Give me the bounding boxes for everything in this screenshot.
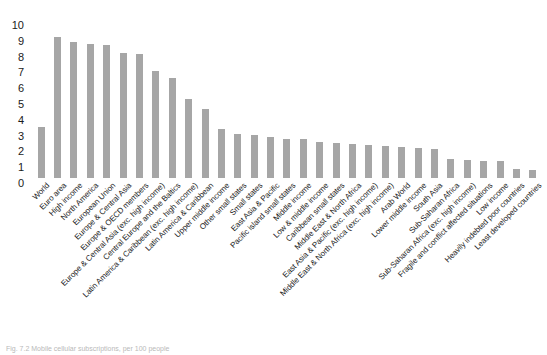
y-tick-label: 7: [18, 67, 24, 78]
bar[interactable]: [513, 169, 520, 178]
bar-slot: [295, 20, 311, 178]
bar-slot: [328, 20, 344, 178]
bar[interactable]: [415, 148, 422, 178]
bar-slot: [180, 20, 196, 178]
bar[interactable]: [464, 160, 471, 178]
bar-slot: [525, 20, 541, 178]
bar-slot: [443, 20, 459, 178]
bar-slot: [312, 20, 328, 178]
bar[interactable]: [185, 99, 192, 178]
y-tick-label: 0: [18, 178, 24, 189]
bar-slot: [262, 20, 278, 178]
bar[interactable]: [169, 78, 176, 178]
bar-slot: [377, 20, 393, 178]
y-tick-label: 10: [12, 20, 24, 31]
y-tick-label: 9: [18, 36, 24, 47]
y-tick-label: 4: [18, 115, 24, 126]
bar-chart-figure: 109876543210 WorldEuro areaHigh incomeNo…: [0, 0, 547, 355]
bar-slot: [475, 20, 491, 178]
bar-slot: [459, 20, 475, 178]
bar[interactable]: [251, 135, 258, 178]
bar-slot: [49, 20, 65, 178]
bar[interactable]: [103, 45, 110, 178]
bar[interactable]: [54, 37, 61, 178]
bar[interactable]: [38, 127, 45, 178]
y-tick-label: 2: [18, 146, 24, 157]
figure-caption: Fig. 7.2 Mobile cellular subscriptions, …: [6, 344, 306, 354]
bar[interactable]: [497, 161, 504, 178]
bar[interactable]: [283, 139, 290, 179]
y-tick-label: 8: [18, 52, 24, 63]
bar[interactable]: [333, 143, 340, 178]
bar-slot: [279, 20, 295, 178]
y-tick-label: 6: [18, 83, 24, 94]
bar[interactable]: [87, 44, 94, 178]
bar[interactable]: [316, 142, 323, 178]
bar-slot: [82, 20, 98, 178]
bar[interactable]: [267, 137, 274, 178]
bar-slot: [426, 20, 442, 178]
bar-slot: [131, 20, 147, 178]
bar-slot: [66, 20, 82, 178]
bar[interactable]: [120, 53, 127, 178]
y-tick-label: 1: [18, 162, 24, 173]
bar-slot: [99, 20, 115, 178]
bar-slot: [164, 20, 180, 178]
bar-slot: [148, 20, 164, 178]
bar[interactable]: [447, 159, 454, 178]
bar-slot: [344, 20, 360, 178]
bar[interactable]: [300, 139, 307, 178]
bar[interactable]: [218, 129, 225, 178]
bar[interactable]: [136, 54, 143, 178]
bar[interactable]: [382, 146, 389, 178]
y-axis: 109876543210: [0, 12, 28, 188]
bar-slot: [115, 20, 131, 178]
bar[interactable]: [529, 170, 536, 178]
bar[interactable]: [398, 147, 405, 178]
bar[interactable]: [431, 149, 438, 178]
bar-slot: [410, 20, 426, 178]
bar-slot: [361, 20, 377, 178]
bar[interactable]: [234, 134, 241, 178]
bar[interactable]: [152, 71, 159, 178]
y-tick-label: 3: [18, 131, 24, 142]
bar-slot: [246, 20, 262, 178]
bar-slot: [33, 20, 49, 178]
bar[interactable]: [365, 145, 372, 178]
bar-slot: [394, 20, 410, 178]
y-tick-label: 5: [18, 99, 24, 110]
bar[interactable]: [70, 42, 77, 178]
bar[interactable]: [349, 144, 356, 178]
bar-slot: [230, 20, 246, 178]
bar-slot: [213, 20, 229, 178]
bar-slot: [508, 20, 524, 178]
bar-slot: [492, 20, 508, 178]
bar-slot: [197, 20, 213, 178]
plot-area: [33, 20, 541, 178]
bar[interactable]: [480, 161, 487, 178]
bar[interactable]: [202, 109, 209, 178]
x-axis-labels: WorldEuro areaHigh incomeNorth AmericaEu…: [33, 179, 547, 339]
